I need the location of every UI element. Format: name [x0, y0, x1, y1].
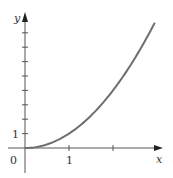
- origin-label: 0: [10, 154, 17, 167]
- x-axis-label: x: [156, 153, 163, 166]
- y-tick-label-1: 1: [12, 128, 19, 141]
- tick-marks: [22, 33, 113, 151]
- y-axis-arrow-icon: [22, 12, 28, 22]
- chart: y x 0 1 1: [0, 0, 173, 178]
- axes: [8, 12, 163, 173]
- y-axis-label: y: [13, 12, 21, 25]
- x-axis-arrow-icon: [154, 145, 163, 151]
- curve-line: [25, 23, 155, 148]
- x-tick-label-1: 1: [66, 154, 73, 167]
